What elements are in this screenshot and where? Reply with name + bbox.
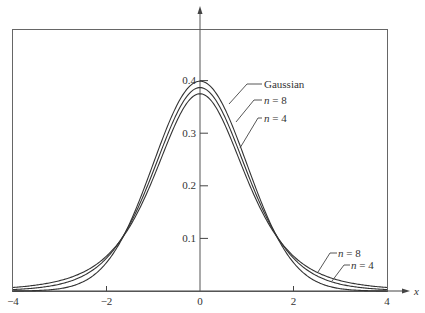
label-n4-tail: n = 4	[351, 259, 374, 271]
chart: x −4 −2 0 2 4 0.1 0.2 0.3 0.4 Gaussian n…	[0, 0, 425, 313]
x-tick-label: 0	[197, 295, 203, 307]
x-ticks: −4 −2 0 2 4	[7, 286, 390, 307]
x-axis-arrow-icon	[402, 289, 410, 294]
label-gaussian: Gaussian	[264, 78, 305, 90]
label-n4-top: n = 4	[264, 112, 287, 124]
y-axis-arrow-icon	[198, 6, 203, 14]
label-n8-tail: n = 8	[338, 247, 361, 259]
y-ticks: 0.1 0.2 0.3 0.4	[182, 74, 208, 244]
x-tick-label: 2	[291, 295, 297, 307]
y-tick-label: 0.4	[182, 74, 196, 86]
x-tick-label: −2	[101, 295, 113, 307]
x-axis-label: x	[413, 285, 419, 297]
x-tick-label: 4	[384, 295, 390, 307]
y-tick-label: 0.2	[182, 179, 196, 191]
y-tick-label: 0.3	[182, 127, 196, 139]
x-tick-label: −4	[7, 295, 19, 307]
label-n8-top: n = 8	[264, 94, 287, 106]
y-tick-label: 0.1	[182, 232, 196, 244]
